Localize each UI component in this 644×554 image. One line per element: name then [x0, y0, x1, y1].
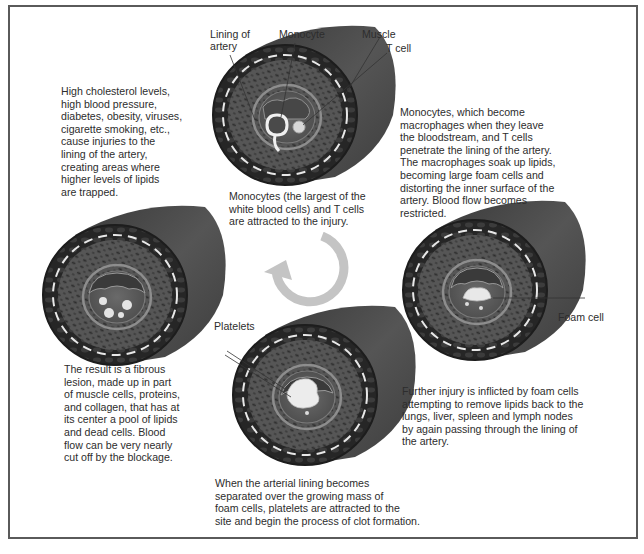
- artery-illustration-stage-3: [400, 215, 600, 365]
- caption-stage-4: Further injury is inflicted by foam cell…: [402, 385, 583, 448]
- label-foam-cell: Foam cell: [558, 311, 604, 323]
- label-lining-of-artery: Lining of artery: [210, 28, 250, 52]
- label-muscle: Muscle: [362, 28, 396, 40]
- caption-stage-3: Monocytes, which become macrophages when…: [400, 106, 555, 219]
- artery-illustration-stage-2: [210, 40, 410, 190]
- artery-illustration-stage-6: [40, 220, 240, 370]
- label-monocyte: Monocyte: [279, 28, 325, 40]
- label-t-cell: T cell: [386, 42, 411, 54]
- caption-stage-2: Monocytes (the largest of the white bloo…: [229, 190, 366, 228]
- label-platelets: Platelets: [214, 320, 255, 332]
- caption-stage-5: When the arterial lining becomes separat…: [215, 477, 420, 527]
- caption-stage-6: The result is a fibrous lesion, made up …: [64, 363, 180, 464]
- caption-stage-1: High cholesterol levels, high blood pres…: [61, 85, 182, 198]
- artery-illustration-stage-5: [230, 320, 430, 470]
- circular-arrow-icon: [262, 232, 362, 332]
